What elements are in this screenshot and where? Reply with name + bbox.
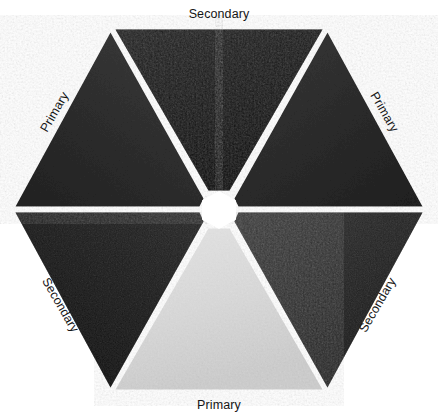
label-bottom: Primary xyxy=(197,398,241,412)
label-top: Secondary xyxy=(189,7,250,21)
figure-canvas: Secondary Primary Secondary Primary Seco… xyxy=(0,0,438,419)
hexagon-wheel-diagram: Secondary Primary Secondary Primary Seco… xyxy=(0,0,438,419)
